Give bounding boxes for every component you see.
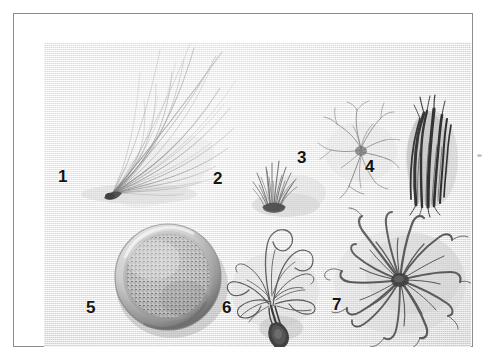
stray-speck-mark: [477, 154, 482, 157]
specimen-label-6: 6: [222, 299, 231, 316]
specimen-label-7: 7: [332, 296, 341, 313]
specimen-label-5: 5: [86, 299, 95, 316]
specimen-4-dark-stem-bundle: [374, 87, 471, 217]
specimen-label-1: 1: [58, 168, 67, 185]
specimen-plate: 1 2 3 4 5 6 7: [0, 0, 490, 360]
photograph: [44, 42, 471, 347]
specimen-7-leaf-rosette: [314, 202, 471, 347]
specimen-label-2: 2: [213, 170, 222, 187]
specimen-label-4: 4: [365, 158, 374, 175]
plate-frame: [13, 13, 473, 347]
specimen-label-3: 3: [297, 149, 306, 166]
